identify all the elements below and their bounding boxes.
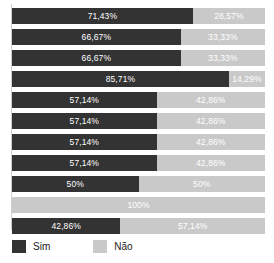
bar-segment-label-nao: 42,86%	[196, 138, 225, 147]
chart-legend: Sim Não	[12, 240, 133, 253]
bar-segment-nao: 57,14%	[120, 218, 265, 234]
bar-segment-label-sim: 57,14%	[70, 117, 99, 126]
legend-swatch-nao-icon	[93, 240, 107, 253]
bar-segment-sim: 57,14%	[12, 113, 157, 129]
bar-segment-nao: 42,86%	[157, 92, 265, 108]
bar-row: 66,67%33,33%	[12, 50, 265, 66]
legend-label-nao: Não	[114, 242, 132, 252]
bar-segment-label-sim: 66,67%	[82, 33, 111, 42]
legend-item-sim[interactable]: Sim	[12, 240, 50, 253]
bar-segment-nao: 42,86%	[157, 155, 265, 171]
bar-row: 57,14%42,86%	[12, 92, 265, 108]
bar-segment-nao: 33,33%	[181, 50, 265, 66]
bar-segment-sim: 42,86%	[12, 218, 120, 234]
bar-segment-label-sim: 71,43%	[88, 12, 117, 21]
bar-row: 71,43%28,57%	[12, 8, 265, 24]
bar-segment-sim: 57,14%	[12, 134, 157, 150]
bar-segment-label-nao: 33,33%	[208, 33, 237, 42]
bar-segment-label-nao: 14,29%	[232, 75, 261, 84]
bar-row: 85,71%14,29%	[12, 71, 265, 87]
chart-plot-area: 71,43%28,57%66,67%33,33%66,67%33,33%85,7…	[12, 8, 265, 230]
legend-swatch-sim-icon	[12, 240, 26, 253]
bar-segment-label-sim: 66,67%	[82, 54, 111, 63]
bar-segment-label-nao: 42,86%	[196, 96, 225, 105]
bar-segment-nao: 42,86%	[157, 134, 265, 150]
bar-segment-label-sim: 57,14%	[70, 138, 99, 147]
bar-segment-label-nao: 57,14%	[178, 222, 207, 231]
bar-row: 57,14%42,86%	[12, 113, 265, 129]
bar-segment-label-nao: 28,57%	[214, 12, 243, 21]
bar-segment-nao: 28,57%	[193, 8, 265, 24]
bar-segment-nao: 100%	[12, 197, 265, 213]
bar-segment-label-nao: 33,33%	[208, 54, 237, 63]
bar-segment-label-nao: 42,86%	[196, 159, 225, 168]
bar-row: 66,67%33,33%	[12, 29, 265, 45]
bar-segment-sim: 85,71%	[12, 71, 229, 87]
bar-segment-sim: 66,67%	[12, 29, 181, 45]
bar-segment-label-sim: 85,71%	[106, 75, 135, 84]
bar-segment-sim: 57,14%	[12, 155, 157, 171]
bar-row: 50%50%	[12, 176, 265, 192]
bar-row: 57,14%42,86%	[12, 134, 265, 150]
bar-row: 42,86%57,14%	[12, 218, 265, 234]
bar-row: 100%	[12, 197, 265, 213]
bar-segment-sim: 66,67%	[12, 50, 181, 66]
bar-segment-label-nao: 42,86%	[196, 117, 225, 126]
bar-segment-sim: 57,14%	[12, 92, 157, 108]
bar-segment-label-sim: 57,14%	[70, 159, 99, 168]
bar-segment-label-nao: 100%	[127, 201, 149, 210]
bar-segment-sim: 50%	[12, 176, 139, 192]
bar-segment-nao: 50%	[139, 176, 266, 192]
legend-label-sim: Sim	[33, 242, 50, 252]
bar-segment-label-sim: 42,86%	[51, 222, 80, 231]
stacked-bar-chart: 71,43%28,57%66,67%33,33%66,67%33,33%85,7…	[0, 0, 274, 263]
legend-item-nao[interactable]: Não	[93, 240, 132, 253]
bar-row: 57,14%42,86%	[12, 155, 265, 171]
bar-segment-label-nao: 50%	[193, 180, 210, 189]
bar-segment-label-sim: 50%	[67, 180, 84, 189]
bar-segment-nao: 42,86%	[157, 113, 265, 129]
bar-segment-nao: 33,33%	[181, 29, 265, 45]
bar-segment-label-sim: 57,14%	[70, 96, 99, 105]
bar-segment-sim: 71,43%	[12, 8, 193, 24]
bar-segment-nao: 14,29%	[229, 71, 265, 87]
